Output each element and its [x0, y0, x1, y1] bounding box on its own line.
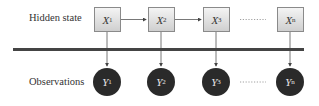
- observed-node-y1: Y1: [93, 68, 121, 96]
- hidden-node-xn: Xn: [277, 7, 304, 32]
- observed-node-y2: Y2: [147, 68, 175, 96]
- hidden-node-x2: X2: [148, 7, 175, 32]
- separator-line: [13, 48, 304, 51]
- hidden-node-x1: X1: [94, 7, 121, 32]
- hidden-node-x3: X3: [203, 7, 230, 32]
- observed-node-y3: Y3: [202, 68, 230, 96]
- observed-node-yn: Yn: [276, 68, 304, 96]
